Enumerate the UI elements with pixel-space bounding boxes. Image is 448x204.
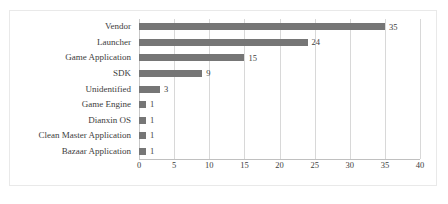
bar-value-label: 3 [164, 85, 168, 94]
bar-value-label: 15 [248, 54, 257, 63]
bar [139, 148, 146, 155]
bar [139, 86, 160, 93]
category-label: Dianxin OS [10, 112, 135, 128]
x-tick-label: 20 [275, 161, 284, 170]
bar-value-label: 35 [389, 23, 398, 32]
bar [139, 132, 146, 139]
bar-value-label: 1 [150, 147, 154, 156]
x-tick-label: 5 [172, 161, 176, 170]
x-tick-label: 30 [346, 161, 355, 170]
bar-series: 35 24 15 9 3 [139, 19, 420, 159]
category-label: Launcher [10, 35, 135, 51]
category-label: Bazaar Application [10, 144, 135, 160]
bar-value-label: 1 [150, 131, 154, 140]
x-tick-label: 25 [310, 161, 319, 170]
category-label: SDK [10, 66, 135, 82]
category-label: Unidentified [10, 81, 135, 97]
x-tick-label: 10 [205, 161, 214, 170]
bar-row: 1 [139, 144, 420, 160]
category-label: Game Application [10, 50, 135, 66]
plot-wrapper: Vendor Launcher Game Application SDK Uni… [10, 11, 438, 187]
bar [139, 117, 146, 124]
bar-row: 24 [139, 35, 420, 51]
bar [139, 23, 385, 30]
bar-value-label: 1 [150, 116, 154, 125]
x-tick-label: 35 [381, 161, 390, 170]
gridline [420, 19, 421, 159]
bar [139, 54, 244, 61]
bar-value-label: 9 [206, 69, 210, 78]
bar [139, 70, 202, 77]
bar-row: 9 [139, 66, 420, 82]
x-tick-label: 40 [416, 161, 425, 170]
bar-row: 35 [139, 19, 420, 35]
x-axis-tick-labels: 0510152025303540 [139, 161, 420, 175]
bar-row: 3 [139, 81, 420, 97]
bar-row: 1 [139, 128, 420, 144]
plot-area: 35 24 15 9 3 [139, 19, 420, 159]
x-tick-label: 0 [137, 161, 141, 170]
bar-row: 15 [139, 50, 420, 66]
bar-value-label: 1 [150, 100, 154, 109]
chart-container: Vendor Launcher Game Application SDK Uni… [9, 10, 437, 186]
bar-row: 1 [139, 112, 420, 128]
x-tick-label: 15 [240, 161, 249, 170]
category-label: Vendor [10, 19, 135, 35]
bar [139, 39, 308, 46]
category-axis-labels: Vendor Launcher Game Application SDK Uni… [10, 19, 135, 159]
bar [139, 101, 146, 108]
bar-value-label: 24 [312, 38, 321, 47]
category-label: Game Engine [10, 97, 135, 113]
category-label: Clean Master Application [10, 128, 135, 144]
bar-row: 1 [139, 97, 420, 113]
